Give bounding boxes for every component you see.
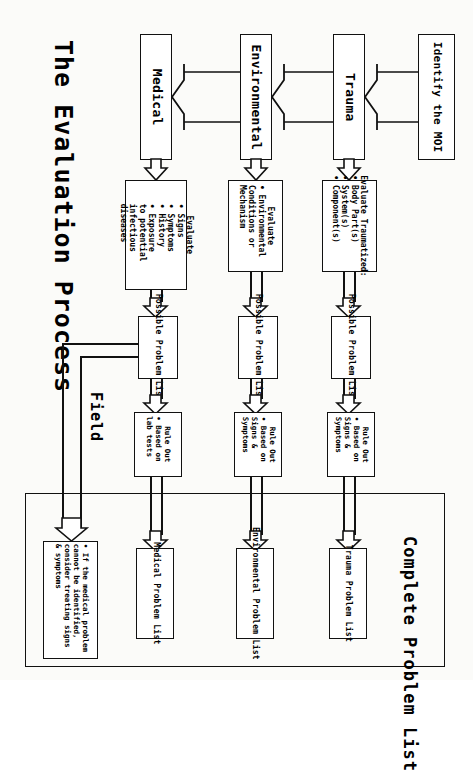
evaluate-box-environmental: Evaluate • Environmental Conditions or M… bbox=[228, 180, 283, 272]
rule-out-bullet: Based on lab tests bbox=[146, 417, 164, 462]
final-problem-list-label: Medical Problem List bbox=[151, 542, 160, 644]
connector-trauma-ruleout-final-2 bbox=[354, 477, 356, 535]
evaluate-bullet: Component(s) bbox=[331, 185, 340, 243]
rule-out-bullet: Based on Signs & Symptoms bbox=[241, 417, 268, 462]
connector-env-ruleout-final-2 bbox=[261, 477, 263, 535]
arrow-environmental-to-evaluate bbox=[245, 159, 267, 181]
field-label: Field bbox=[87, 392, 105, 442]
evaluate-heading-trauma: Evaluate Traumatized: bbox=[359, 175, 368, 276]
connector-trauma-ruleout-final bbox=[343, 477, 345, 535]
fork-environmental-to-medical bbox=[172, 58, 240, 136]
evaluate-box-trauma: Evaluate Traumatized: • Body Part(s) • S… bbox=[322, 180, 377, 272]
evaluate-heading-medical: Evaluate bbox=[185, 216, 194, 255]
source-box-identify-moi: Identify the MOI bbox=[418, 34, 455, 160]
field-branch-line-top-2 bbox=[80, 356, 139, 358]
evaluate-bullet: Environmental Conditions or Mechanism bbox=[237, 185, 265, 257]
connector-med-ruleout-final bbox=[150, 477, 152, 535]
field-label-text: Field bbox=[87, 392, 105, 442]
field-branch-line-top bbox=[62, 343, 139, 345]
rule-out-bullet: Based on Signs & Symptoms bbox=[334, 417, 361, 462]
evaluate-bullet: Exposure to potential infectious disease… bbox=[119, 204, 156, 262]
complete-problem-list-text: Complete Problem List bbox=[400, 536, 420, 772]
category-box-trauma: Trauma bbox=[333, 34, 365, 160]
category-box-medical: Medical bbox=[140, 34, 172, 160]
final-problem-list-environmental: Environmental Problem List bbox=[236, 548, 274, 639]
rule-out-heading: Rule Out bbox=[268, 426, 277, 462]
note-box-medical-unidentified: • If the medical problem cannot be ident… bbox=[43, 541, 98, 659]
category-label-trauma: Trauma bbox=[342, 73, 357, 122]
rule-out-box-environmental: Rule Out • Based on Signs & Symptoms bbox=[234, 412, 282, 477]
evaluate-bullet: Signs bbox=[175, 214, 184, 238]
possible-problem-list-trauma: Possible Problem List bbox=[331, 316, 371, 379]
page-title-text: The Evaluation Process bbox=[49, 40, 78, 393]
page-title: The Evaluation Process bbox=[49, 40, 78, 393]
arrow-medical-to-evaluate bbox=[145, 159, 167, 181]
possible-problem-list-medical: Possible Problem List bbox=[138, 316, 178, 379]
rule-out-heading: Rule Out bbox=[163, 426, 172, 462]
evaluate-bullet: System(s) bbox=[341, 185, 350, 228]
evaluate-box-medical: Evaluate • Signs • Symptoms • History • … bbox=[125, 180, 187, 290]
source-box-label: Identify the MOI bbox=[431, 42, 444, 153]
evaluate-bullet: History bbox=[156, 214, 165, 248]
final-problem-list-trauma: Trauma Problem List bbox=[329, 548, 367, 639]
possible-problem-list-environmental: Possible Problem List bbox=[238, 316, 278, 379]
rule-out-box-trauma: Rule Out • Based on Signs & Symptoms bbox=[327, 412, 375, 477]
category-box-environmental: Environmental bbox=[240, 34, 272, 160]
complete-problem-list-label: Complete Problem List bbox=[400, 536, 420, 772]
evaluate-heading-environmental: Evaluate bbox=[265, 207, 274, 246]
evaluate-bullet: Body Part(s) bbox=[350, 185, 359, 243]
evaluate-bullet: Symptoms bbox=[166, 214, 175, 253]
rule-out-box-medical: Rule Out • Based on lab tests bbox=[134, 412, 182, 477]
category-label-environmental: Environmental bbox=[249, 44, 264, 150]
connector-med-ruleout-final-2 bbox=[161, 477, 163, 535]
category-label-medical: Medical bbox=[149, 69, 164, 126]
fork-source-to-trauma bbox=[365, 58, 419, 136]
fork-trauma-to-environmental bbox=[272, 58, 333, 136]
final-problem-list-label: Trauma Problem List bbox=[344, 545, 353, 642]
final-problem-list-label: Environmental Problem List bbox=[251, 527, 260, 660]
note-text: If the medical problem cannot be identif… bbox=[54, 544, 90, 652]
rule-out-heading: Rule Out bbox=[361, 426, 370, 462]
final-problem-list-medical: Medical Problem List bbox=[136, 548, 174, 639]
